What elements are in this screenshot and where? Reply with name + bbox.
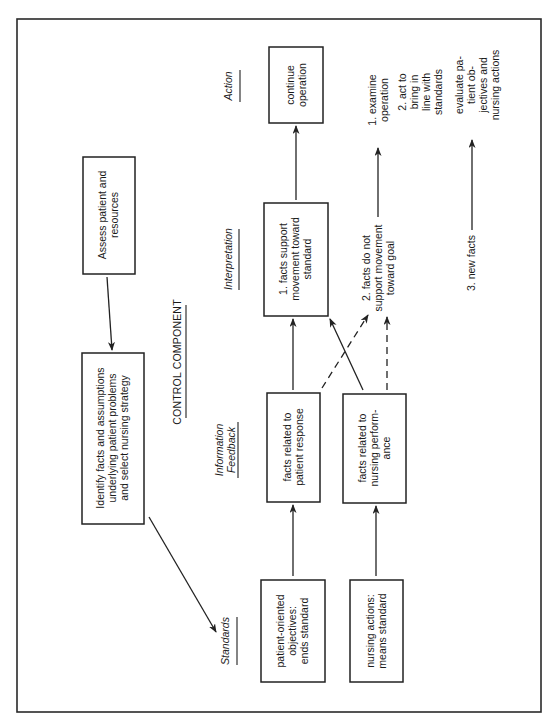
svg-text:operation: operation	[378, 78, 390, 122]
svg-text:Assess patient and: Assess patient and	[96, 170, 108, 259]
svg-text:ance: ance	[380, 436, 392, 459]
svg-text:underlying patient problems: underlying patient problems	[106, 374, 118, 503]
evaluate-label: evaluate pa- tient ob- jectives and nurs…	[453, 50, 501, 121]
svg-text:2. act to: 2. act to	[396, 73, 408, 111]
svg-text:Standards: Standards	[219, 616, 231, 665]
svg-text:standard: standard	[301, 238, 313, 279]
examine-label: 1. examine operation	[366, 74, 390, 126]
svg-text:nursing perform-: nursing perform-	[368, 409, 380, 487]
new-facts-label: 3. new facts	[465, 235, 477, 291]
svg-text:standards: standards	[432, 69, 444, 115]
arrow-assess-to-identify	[107, 277, 112, 350]
header-action: Action	[222, 71, 234, 101]
svg-text:Feedback: Feedback	[225, 426, 237, 473]
svg-text:ends standard: ends standard	[298, 598, 310, 665]
arrow-nursing-to-support	[330, 319, 363, 390]
svg-text:bring in: bring in	[408, 75, 420, 110]
header-interpretation: Interpretation	[222, 228, 234, 290]
arrow-identify-to-standards	[149, 517, 216, 632]
svg-text:jectives and: jectives and	[477, 57, 489, 114]
diagram-title: CONTROL COMPONENT	[171, 299, 183, 425]
facts-not-support-label: 2. facts do not support movement toward …	[360, 224, 396, 311]
svg-text:nursing actions: nursing actions	[489, 50, 501, 121]
svg-text:support movement: support movement	[372, 224, 384, 311]
svg-text:toward goal: toward goal	[384, 241, 396, 295]
svg-text:facts related to: facts related to	[281, 412, 293, 481]
svg-text:patient response: patient response	[293, 408, 305, 486]
svg-text:Action: Action	[222, 71, 234, 101]
header-information-feedback: Information Feedback	[213, 424, 237, 477]
control-component-diagram: Action Interpretation Information Feedba…	[0, 0, 557, 728]
svg-text:and select nursing strategy: and select nursing strategy	[118, 375, 130, 501]
svg-text:movement toward: movement toward	[289, 217, 301, 301]
svg-text:evaluate pa-: evaluate pa-	[453, 56, 465, 114]
svg-text:CONTROL COMPONENT: CONTROL COMPONENT	[171, 299, 183, 425]
act-label: 2. act to bring in line with standards	[396, 69, 444, 115]
svg-text:nursing actions:: nursing actions:	[364, 594, 376, 668]
svg-text:3. new facts: 3. new facts	[465, 235, 477, 291]
svg-text:tient ob-: tient ob-	[465, 66, 477, 104]
svg-text:patient-oriented: patient-oriented	[274, 594, 286, 667]
continue-text: continue operation	[284, 63, 308, 107]
svg-text:resources: resources	[108, 192, 120, 238]
facts-patient-text: facts related to patient response	[281, 408, 305, 486]
svg-text:objectives:: objectives:	[286, 606, 298, 656]
svg-text:operation: operation	[296, 63, 308, 107]
svg-text:line with: line with	[420, 73, 432, 111]
nursing-actions-text: nursing actions: means standard	[364, 593, 388, 668]
svg-text:1. facts support: 1. facts support	[277, 223, 289, 295]
header-standards: Standards	[219, 616, 231, 665]
svg-text:facts related to: facts related to	[356, 413, 368, 482]
svg-text:1. examine: 1. examine	[366, 74, 378, 126]
svg-text:2. facts do not: 2. facts do not	[360, 235, 372, 301]
svg-text:Interpretation: Interpretation	[222, 228, 234, 290]
svg-text:means standard: means standard	[376, 593, 388, 668]
identify-text: Identify facts and assumptions underlyin…	[94, 367, 130, 508]
svg-text:Identify facts and assumptions: Identify facts and assumptions	[94, 367, 106, 508]
svg-text:Information: Information	[213, 424, 225, 477]
svg-text:continue: continue	[284, 65, 296, 105]
